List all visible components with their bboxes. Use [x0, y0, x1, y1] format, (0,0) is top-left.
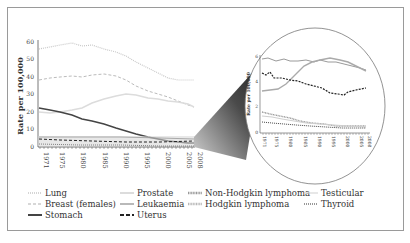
svg-text:50: 50 [26, 55, 34, 62]
line-swatch-icon [120, 201, 134, 207]
svg-text:4: 4 [255, 79, 258, 84]
svg-text:2008: 2008 [196, 152, 204, 169]
legend-item-lung: Lung [28, 188, 67, 198]
legend-item-leukaemia: Leukaemia [120, 199, 184, 209]
svg-text:60: 60 [26, 38, 34, 45]
svg-text:2008: 2008 [367, 136, 372, 148]
svg-text:0: 0 [255, 130, 258, 135]
svg-text:1980: 1980 [79, 152, 87, 169]
legend-item-nhl: Non-Hodgkin lymphoma [188, 188, 310, 198]
line-swatch-icon [304, 201, 318, 207]
svg-text:1985: 1985 [101, 152, 109, 169]
line-swatch-icon [188, 201, 202, 207]
svg-text:2000: 2000 [164, 152, 172, 169]
svg-text:1971: 1971 [262, 136, 267, 148]
legend-item-stomach: Stomach [28, 210, 83, 220]
svg-text:1975: 1975 [58, 152, 66, 169]
legend-item-hodgkin: Hodgkin lymphoma [188, 199, 289, 209]
line-swatch-icon [304, 190, 318, 196]
main-ylabel: Rate per 100,000 [15, 57, 25, 135]
line-swatch-icon [120, 212, 134, 218]
series-lung [39, 43, 194, 80]
main-yticks: 0 10 20 30 40 50 60 [26, 38, 34, 150]
legend-item-prostate: Prostate [120, 188, 173, 198]
svg-text:40: 40 [26, 73, 34, 80]
svg-text:1980: 1980 [288, 136, 293, 148]
line-swatch-icon [120, 190, 134, 196]
line-swatch-icon [188, 190, 202, 196]
svg-text:10: 10 [26, 125, 34, 132]
inset-circle [245, 28, 385, 184]
svg-text:2: 2 [255, 104, 258, 109]
line-swatch-icon [28, 201, 42, 207]
svg-text:20: 20 [26, 108, 34, 115]
legend-item-thyroid: Thyroid [304, 199, 354, 209]
svg-text:2000: 2000 [345, 136, 350, 148]
legend-item-uterus: Uterus [120, 210, 167, 220]
main-xticks: 1971 1975 1980 1985 1990 1995 2000 2005 … [42, 152, 204, 169]
inset-ylabel: Rate per 100,000 [246, 72, 251, 116]
svg-text:1995: 1995 [331, 136, 336, 148]
svg-text:1990: 1990 [317, 136, 322, 148]
svg-text:2005: 2005 [185, 152, 193, 169]
svg-text:0: 0 [30, 143, 34, 150]
svg-text:1985: 1985 [303, 136, 308, 148]
svg-text:30: 30 [26, 90, 34, 97]
line-swatch-icon [28, 190, 42, 196]
line-swatch-icon [28, 212, 42, 218]
svg-text:2005: 2005 [359, 136, 364, 148]
svg-text:6: 6 [255, 54, 258, 59]
svg-text:1990: 1990 [122, 152, 130, 169]
svg-text:1975: 1975 [274, 136, 279, 148]
main-lines [38, 43, 195, 146]
legend-item-testicular: Testicular [304, 188, 364, 198]
legend-item-breast: Breast (females) [28, 199, 116, 209]
svg-text:1995: 1995 [143, 152, 151, 169]
series-prostate [39, 94, 194, 113]
svg-text:1971: 1971 [42, 152, 50, 169]
